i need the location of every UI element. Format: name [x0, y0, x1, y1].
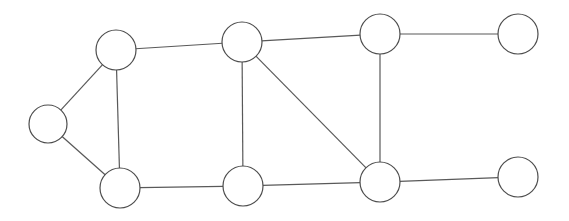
node-upper-right-hub	[360, 14, 400, 54]
edge-upper-mid-lower-mid	[242, 62, 243, 167]
graph-canvas	[0, 0, 569, 221]
node-upper-left	[96, 30, 136, 70]
edge-left-apex-lower-left	[62, 136, 106, 175]
edge-lower-left-lower-mid	[140, 186, 224, 187]
node-upper-far-right	[498, 14, 538, 54]
edge-upper-mid-upper-right-hub	[261, 35, 360, 41]
node-lower-far-right	[498, 157, 538, 197]
node-lower-mid	[223, 166, 263, 206]
graph-figure	[0, 0, 569, 221]
edge-lower-mid-lower-right-hub	[262, 183, 360, 186]
node-lower-left	[100, 168, 140, 208]
node-upper-mid	[222, 22, 262, 62]
edge-lower-right-hub-lower-far-right	[399, 178, 498, 182]
edge-upper-left-upper-mid	[135, 43, 222, 49]
node-left-apex	[29, 105, 67, 143]
edge-left-apex-upper-left	[61, 64, 103, 110]
edge-upper-left-lower-left	[117, 69, 120, 168]
edge-upper-mid-lower-right-hub	[256, 56, 367, 168]
node-lower-right-hub	[360, 162, 400, 202]
